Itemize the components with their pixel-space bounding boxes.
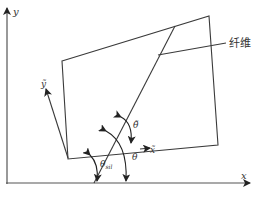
theta-tilde-label: θ̃ xyxy=(133,120,139,130)
local-y-label: ỹ xyxy=(40,79,47,89)
theta-sil-label: θsil xyxy=(100,159,112,170)
theta-label: θ xyxy=(132,152,138,162)
theta-arc xyxy=(106,131,126,181)
fiber-leader-line xyxy=(158,43,226,55)
fiber-label: 纤维 xyxy=(229,37,251,50)
local-x-axis xyxy=(140,148,150,149)
y-axis-label: y xyxy=(12,6,19,17)
theta-tilde-arc xyxy=(121,117,131,143)
theta-sil-arc xyxy=(90,155,97,181)
lamina-rectangle xyxy=(62,16,218,159)
x-axis-label: x xyxy=(241,170,247,181)
global-axes: y x xyxy=(6,6,250,184)
local-x-label: x̃ xyxy=(150,145,155,155)
local-axes: ỹ x̃ xyxy=(40,79,155,158)
fiber-angle-diagram: y x 纤维 ỹ x̃ θ̃ θ θsil xyxy=(0,0,257,197)
theta-sil-subscript: sil xyxy=(105,163,112,170)
angle-arcs xyxy=(90,117,131,181)
